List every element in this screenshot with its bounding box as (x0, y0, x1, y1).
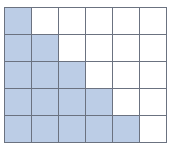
grid-cell-shaded (5, 116, 32, 143)
grid-cell-empty (32, 8, 59, 35)
grid-cell-empty (113, 89, 140, 116)
grid-cell-shaded (32, 62, 59, 89)
grid-cell-empty (113, 8, 140, 35)
grid-cell-empty (140, 89, 167, 116)
grid-cell-shaded (5, 62, 32, 89)
grid-cell-shaded (86, 89, 113, 116)
grid-cell-empty (140, 35, 167, 62)
grid-cell-shaded (59, 116, 86, 143)
grid-cell-shaded (32, 35, 59, 62)
grid-cell-shaded (5, 35, 32, 62)
grid-cell-shaded (113, 116, 140, 143)
grid-cell-empty (140, 8, 167, 35)
grid-cell-shaded (32, 89, 59, 116)
grid-cell-empty (113, 35, 140, 62)
grid-cell-shaded (59, 89, 86, 116)
grid-cell-shaded (32, 116, 59, 143)
grid-cell-empty (86, 8, 113, 35)
grid-cell-shaded (5, 89, 32, 116)
grid-cell-empty (113, 62, 140, 89)
grid-cell-shaded (5, 8, 32, 35)
grid-cell-empty (86, 35, 113, 62)
grid-cell-empty (86, 62, 113, 89)
grid-cell-empty (59, 8, 86, 35)
grid-cell-empty (140, 116, 167, 143)
grid-cell-shaded (86, 116, 113, 143)
grid-cell-empty (140, 62, 167, 89)
grid-cell-shaded (59, 62, 86, 89)
grid-cell-empty (59, 35, 86, 62)
staircase-grid (4, 7, 167, 143)
